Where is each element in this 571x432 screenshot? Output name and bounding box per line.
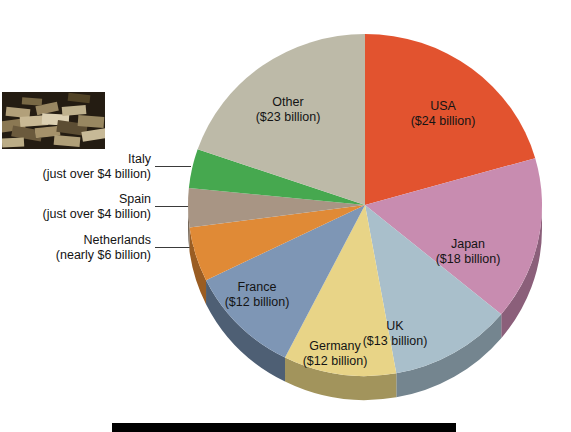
slice-label-name-uk: UK	[386, 319, 404, 333]
pie-chart-figure: Italy (just over $4 billion) Spain (just…	[0, 0, 571, 432]
slice-label-value-other: ($23 billion)	[256, 110, 321, 124]
slice-label-name-germany: Germany	[309, 339, 361, 353]
slice-label-name-france: France	[238, 280, 277, 294]
pie-slices	[188, 34, 542, 376]
slice-label-value-japan: ($18 billion)	[436, 252, 501, 266]
slice-label-value-usa: ($24 billion)	[411, 114, 476, 128]
slice-label-name-usa: USA	[430, 99, 456, 113]
slice-label-value-france: ($12 billion)	[225, 295, 290, 309]
slice-label-value-uk: ($13 billion)	[363, 334, 428, 348]
slice-label-name-other: Other	[272, 95, 303, 109]
caption-bar	[112, 423, 456, 432]
slice-label-name-japan: Japan	[451, 237, 485, 251]
slice-label-value-germany: ($12 billion)	[303, 354, 368, 368]
pie-chart: USA($24 billion)Japan($18 billion)UK($13…	[0, 0, 571, 432]
